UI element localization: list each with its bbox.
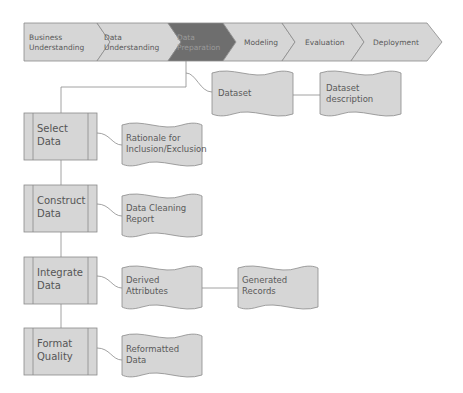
task-label-format-quality: Format Quality xyxy=(37,337,73,363)
phase-label-evaluation: Evaluation xyxy=(305,38,345,48)
phase-label-modeling: Modeling xyxy=(244,38,278,48)
connector-select-to-rationale xyxy=(97,133,122,145)
task-boxes xyxy=(24,113,97,375)
doc-label-dataset: Dataset xyxy=(218,88,251,99)
task-label-construct-data: Construct Data xyxy=(37,194,85,220)
connector-format-to-reformatted xyxy=(97,348,122,360)
connector-integrate-to-derived xyxy=(97,276,122,288)
task-label-integrate-data: Integrate Data xyxy=(37,266,83,292)
phase-label-data-preparation: Data Preparation xyxy=(177,33,220,53)
connector-phase-to-tasks xyxy=(61,61,186,113)
phase-label-deployment: Deployment xyxy=(373,38,419,48)
doc-label-rationale: Rationale for Inclusion/Exclusion xyxy=(126,133,207,155)
doc-label-cleaning-report: Data Cleaning Report xyxy=(126,203,186,225)
doc-label-dataset-description: Dataset description xyxy=(326,83,373,105)
connector-construct-to-report xyxy=(97,204,122,216)
phase-label-business-understanding: Business Understanding xyxy=(29,33,84,53)
doc-label-derived-attributes: Derived Attributes xyxy=(126,275,168,297)
task-label-select-data: Select Data xyxy=(37,122,68,148)
doc-label-generated-records: Generated Records xyxy=(242,275,287,297)
connector-phase-to-dataset xyxy=(186,73,212,92)
doc-label-reformatted-data: Reformatted Data xyxy=(126,344,179,366)
phase-label-data-understanding: Data Understanding xyxy=(104,33,159,53)
